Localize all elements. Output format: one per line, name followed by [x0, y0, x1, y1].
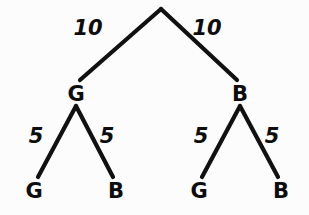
- node-group: G B G B G B: [25, 82, 289, 203]
- node-label-level1-left: G: [67, 82, 84, 106]
- edge-weight-g-left: 5: [29, 124, 44, 148]
- node-label-leaf-1: G: [25, 179, 42, 203]
- edge-weight-b-right: 5: [265, 124, 280, 148]
- node-label-leaf-3: G: [190, 179, 207, 203]
- binary-tree-diagram: 10 10 5 5 5 5 G B G B G B: [0, 0, 309, 215]
- edge-g-to-g: [38, 106, 76, 177]
- node-label-leaf-2: B: [108, 179, 124, 203]
- edge-weight-g-right: 5: [100, 124, 115, 148]
- node-label-level1-right: B: [232, 82, 248, 106]
- edge-weight-b-left: 5: [194, 124, 209, 148]
- edge-weight-root-left: 10: [73, 16, 102, 40]
- node-label-leaf-4: B: [273, 179, 289, 203]
- diagram-canvas: 10 10 5 5 5 5 G B G B G B: [0, 0, 309, 215]
- edge-weight-root-right: 10: [192, 16, 221, 40]
